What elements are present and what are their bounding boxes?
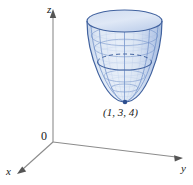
vertex-point-marker — [123, 100, 128, 105]
figure-canvas — [0, 0, 193, 185]
x-axis-label: x — [6, 166, 11, 177]
z-axis-label: z — [47, 4, 51, 15]
y-axis-arrowhead — [174, 155, 183, 161]
y-axis-label: y — [181, 163, 186, 174]
y-axis — [53, 142, 176, 157]
x-axis — [23, 142, 53, 169]
origin-label: 0 — [41, 130, 47, 142]
vertex-point-label: (1, 3, 4) — [103, 107, 138, 118]
paraboloid-figure: z y x 0 (1, 3, 4) — [0, 0, 193, 185]
paraboloid-surface — [87, 10, 162, 104]
